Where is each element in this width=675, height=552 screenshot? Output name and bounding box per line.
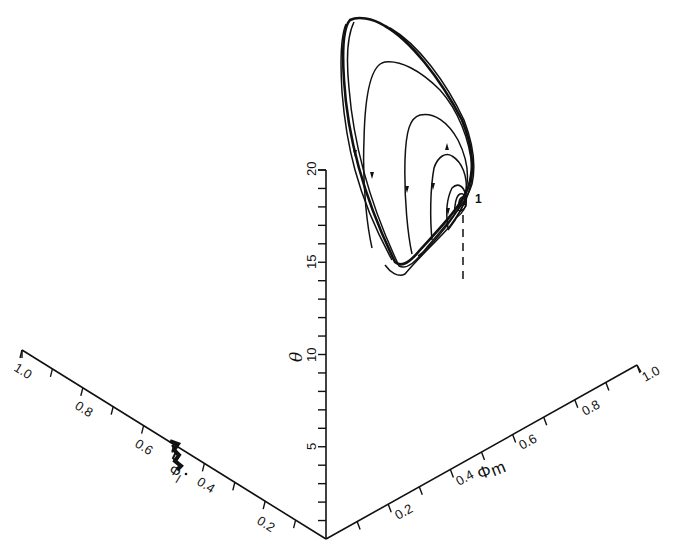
fixed-point-label: 1	[475, 192, 482, 206]
phi-l-tick-0.4: 0.4	[194, 474, 217, 496]
phase-space-figure: 5 10 15 20 θ 0.2 0.4 0.6 0.8 1.0 Φ l 0.2…	[0, 0, 675, 552]
phi-m-axis: 0.2 0.4 0.6 0.8 1.0 Φ m	[326, 363, 662, 539]
theta-tick-10: 10	[304, 348, 319, 362]
axis-tick	[142, 426, 144, 434]
axis-tick	[294, 520, 296, 528]
theta-tick-20: 20	[304, 162, 319, 176]
axis-tick	[263, 501, 265, 509]
phi-l-tick-1.0: 1.0	[11, 360, 34, 382]
theta-axis: 5 10 15 20 θ	[286, 162, 326, 539]
phi-m-tick-0.2: 0.2	[392, 501, 415, 523]
phi-m-tick-0.8: 0.8	[579, 397, 602, 419]
trajectory	[341, 18, 474, 275]
axis-tick	[419, 487, 422, 495]
axis-tick	[482, 452, 485, 460]
axis-tick	[357, 522, 360, 530]
axis-tick	[50, 369, 52, 377]
axis-tick	[388, 504, 391, 512]
phi-l-tick-0.2: 0.2	[254, 513, 277, 535]
axis-tick	[513, 435, 516, 443]
direction-arrow	[370, 172, 374, 179]
axis-tick	[202, 463, 204, 471]
phi-l-tick-0.8: 0.8	[72, 398, 95, 420]
theta-tick-5: 5	[304, 443, 319, 450]
phi-m-tick-0.6: 0.6	[516, 431, 539, 453]
axis-tick	[544, 417, 547, 425]
axis-tick	[606, 382, 609, 390]
phi-l-axis: 0.2 0.4 0.6 0.8 1.0 Φ l	[11, 350, 326, 539]
theta-tick-15: 15	[304, 255, 319, 269]
phi-m-tick-0.4: 0.4	[453, 467, 476, 489]
axis-tick	[81, 388, 83, 396]
phi-m-axis-label: Φ m	[474, 456, 508, 486]
phi-m-tick-1.0: 1.0	[639, 363, 662, 385]
direction-arrow	[445, 143, 449, 150]
axis-tick	[233, 482, 235, 490]
theta-axis-label: θ	[286, 352, 306, 362]
phi-l-tick-0.6: 0.6	[132, 436, 155, 458]
phi-l-axis-label: Φ l	[164, 461, 187, 486]
axis-tick	[575, 400, 578, 408]
axis-tick	[111, 407, 113, 415]
